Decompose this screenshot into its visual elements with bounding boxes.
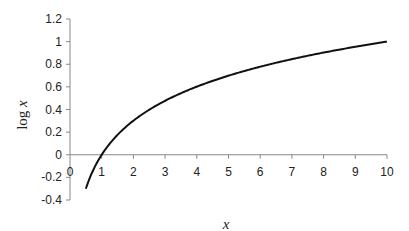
x-tick-label: 9	[352, 165, 359, 179]
y-tick-label: 0.8	[45, 57, 62, 71]
plot-area: 1.210.80.60.40.20-0.2-0.4012345678910xlo…	[14, 12, 394, 231]
chart: 1.210.80.60.40.20-0.2-0.4012345678910xlo…	[0, 0, 409, 231]
y-axis-title: log x	[14, 100, 30, 130]
y-tick-label: 1.2	[45, 12, 62, 26]
y-tick-label: 1	[55, 35, 62, 49]
x-tick-label: 7	[289, 165, 296, 179]
x-tick-label: 3	[162, 165, 169, 179]
y-tick-label: 0	[55, 148, 62, 162]
y-tick-label: 0.2	[45, 125, 62, 139]
y-tick-label: 0.6	[45, 80, 62, 94]
x-tick-label: 0	[67, 165, 74, 179]
x-tick-label: 5	[225, 165, 232, 179]
x-tick-label: 6	[257, 165, 264, 179]
x-tick-label: 1	[98, 165, 105, 179]
x-axis-title: x	[222, 216, 230, 231]
x-tick-label: 10	[380, 165, 394, 179]
y-tick-label: -0.2	[41, 170, 62, 184]
x-tick-label: 8	[320, 165, 327, 179]
y-tick-label: -0.4	[41, 193, 62, 207]
y-tick-label: 0.4	[45, 103, 62, 117]
x-tick-label: 2	[130, 165, 137, 179]
x-tick-label: 4	[193, 165, 200, 179]
